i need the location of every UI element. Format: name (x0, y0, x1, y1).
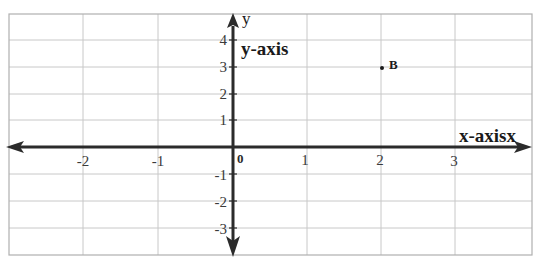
point-b: B (380, 57, 398, 72)
y-tick-label: 2 (220, 86, 228, 102)
x-tick-label: 3 (450, 153, 458, 169)
x-tick-label: 1 (301, 152, 309, 168)
y-tick-label: 4 (220, 32, 228, 48)
y-tick-label: -3 (215, 221, 228, 237)
point-label: B (389, 57, 398, 72)
y-tick-label: 3 (220, 59, 228, 75)
y-tick-label: -2 (215, 194, 228, 210)
point-marker (380, 66, 384, 70)
x-tick-label: 2 (376, 152, 384, 168)
y-axis (226, 13, 240, 257)
x-tick-label: -1 (152, 153, 165, 169)
x-axis (6, 141, 532, 153)
y-tick-label: -1 (215, 167, 228, 183)
x-tick-label: -2 (77, 153, 90, 169)
x-tick-labels: -2 -1 1 2 3 (77, 152, 458, 169)
y-axis-title: y-axis (241, 38, 289, 59)
x-axis-title: x-axisx (459, 125, 517, 146)
coordinate-plane: -2 -1 1 2 3 4 3 2 1 -1 -2 -3 0 y y-axis … (0, 0, 539, 264)
origin-label: 0 (237, 151, 244, 166)
y-tick-labels: 4 3 2 1 -1 -2 -3 (215, 32, 228, 237)
y-axis-letter: y (242, 9, 251, 28)
y-tick-label: 1 (220, 112, 228, 128)
y-axis-up-arrow-icon (227, 13, 239, 28)
